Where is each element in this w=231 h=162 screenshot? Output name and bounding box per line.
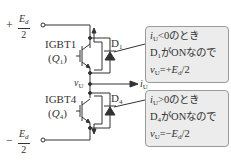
diode1-icon [105,52,115,60]
diode1-label: D1 [111,37,122,53]
output-current-arrow-icon [130,81,138,87]
top-supply-fraction: Ed 2 [18,13,30,40]
igbt4-label: IGBT4 [45,93,76,105]
callout-top-line2: D1がONなので [150,46,224,63]
diode4-label: D4 [111,92,122,108]
top-terminal [41,23,45,27]
callout-top-line1: iU<0のとき [150,29,224,46]
bottom-terminal [41,138,45,142]
callout-bottom-line3: vU=−Ed/2 [150,127,224,144]
bottom-supply-fraction: Ed 2 [18,128,30,155]
callout-bottom-line2: D4がONなので [150,110,224,127]
diode4-icon [105,107,115,115]
output-voltage-label: vU [74,77,84,92]
callout-top: iU<0のとき D1がONなので vU=+Ed/2 [145,26,229,83]
callout-bottom-line1: iU>0のとき [150,93,224,110]
igbt1-label: IGBT1 [45,38,76,50]
callout-top-line3: vU=+Ed/2 [150,63,224,80]
callout-bottom: iU>0のとき D4がONなので vU=−Ed/2 [145,90,229,147]
igbt4-symbol: (Q4) [48,107,67,123]
top-supply-sign: + [6,19,13,31]
igbt1-symbol: (Q1) [48,52,67,68]
bottom-supply-sign: − [6,134,13,146]
